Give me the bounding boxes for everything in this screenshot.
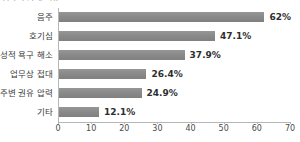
plot-area: 음주62%호기심47.1%성적 욕구 해소37.9%업무상 접대26.4%주변 … xyxy=(58,8,290,121)
category-label: 주변 권유 압력 xyxy=(0,88,53,98)
bar-row: 주변 권유 압력24.9% xyxy=(58,83,290,102)
bar-value-label: 12.1% xyxy=(104,107,135,117)
bar-value-label: 62% xyxy=(269,12,291,22)
category-label: 음주 xyxy=(37,12,53,22)
x-axis-tick-label: 40 xyxy=(185,124,195,134)
bar xyxy=(59,31,215,41)
category-label: 기타 xyxy=(37,107,53,117)
category-label: 호기심 xyxy=(29,31,53,41)
bar xyxy=(59,12,264,22)
bar xyxy=(59,69,146,79)
x-axis-tick-label: 30 xyxy=(152,124,162,134)
bar-value-label: 24.9% xyxy=(147,88,178,98)
chart-title: 성폭력 가해 이유 xyxy=(2,0,60,1)
bar-value-label: 37.9% xyxy=(190,50,221,60)
x-axis-tick-label: 20 xyxy=(119,124,129,134)
bar-chart: 성폭력 가해 이유 음주62%호기심47.1%성적 욕구 해소37.9%업무상 … xyxy=(0,0,300,142)
category-label: 업무상 접대 xyxy=(10,69,53,79)
x-axis-tick-label: 10 xyxy=(86,124,96,134)
x-axis-tick-label: 0 xyxy=(55,124,60,134)
bar xyxy=(59,88,142,98)
bar-row: 성적 욕구 해소37.9% xyxy=(58,46,290,65)
bar-row: 호기심47.1% xyxy=(58,27,290,46)
bar-row: 음주62% xyxy=(58,8,290,27)
bar-value-label: 26.4% xyxy=(151,69,182,79)
bar xyxy=(59,50,185,60)
bar-value-label: 47.1% xyxy=(220,31,251,41)
category-label: 성적 욕구 해소 xyxy=(0,50,53,60)
bar xyxy=(59,107,99,117)
bar-row: 업무상 접대26.4% xyxy=(58,65,290,84)
x-axis-tick-label: 60 xyxy=(252,124,262,134)
x-axis-line xyxy=(58,122,290,123)
x-axis-tick-label: 50 xyxy=(219,124,229,134)
x-axis-tick-label: 70 xyxy=(285,124,295,134)
bar-row: 기타12.1% xyxy=(58,102,290,121)
